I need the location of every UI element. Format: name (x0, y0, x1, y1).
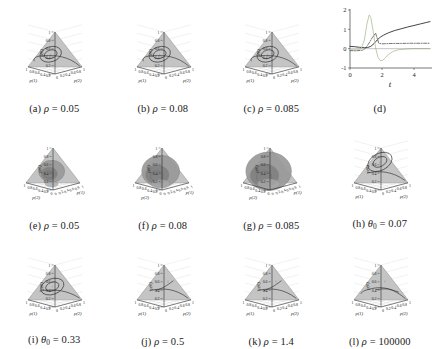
panel-l-eq: = (370, 336, 376, 347)
svg-text:0.8: 0.8 (246, 70, 251, 74)
svg-text:p(0): p(0) (39, 49, 44, 58)
svg-text:0.6: 0.6 (143, 71, 148, 75)
svg-text:0.4: 0.4 (40, 73, 45, 77)
panel-i-param: θ0 (41, 334, 50, 345)
svg-text:0.8: 0.8 (46, 271, 51, 275)
svg-text:+: + (166, 279, 168, 283)
figure-panel-grid: +10.80.60.40.20p(0)0.20.40.60.81p(1)00.2… (0, 0, 434, 349)
panel-c-param: ρ (258, 103, 263, 114)
svg-text:0.2: 0.2 (46, 64, 51, 68)
panel-i-value: 0.33 (62, 334, 81, 345)
svg-text:p(2): p(2) (290, 78, 299, 83)
panel-c-plot: +10.80.60.40.20p(0)0.20.40.60.81p(1)00.2… (217, 2, 326, 94)
panel-c: +10.80.60.40.20p(0)0.20.40.60.81p(1)00.2… (217, 0, 326, 116)
svg-text:0.8: 0.8 (355, 186, 360, 190)
svg-text:p(1): p(1) (245, 78, 254, 83)
svg-text:0.2: 0.2 (154, 307, 159, 311)
panel-c-svg: +10.80.60.40.20p(0)0.20.40.60.81p(1)00.2… (217, 2, 326, 94)
panel-g-plot: 10.80.60.40.20p(0)10.80.60.40.20p(2)00.2… (217, 118, 326, 210)
svg-text:p(0): p(0) (364, 281, 369, 290)
svg-text:1: 1 (243, 301, 245, 305)
panel-f-value: 0.08 (168, 220, 187, 231)
svg-text:0.4: 0.4 (174, 73, 179, 77)
svg-text:-1: -1 (341, 64, 346, 71)
panel-b-caption: (b) ρ = 0.08 (109, 103, 218, 114)
panel-g-eq: = (266, 220, 272, 231)
panel-f-letter: (f) (138, 220, 149, 231)
panel-h-value: 0.07 (388, 218, 407, 229)
svg-text:p(1): p(1) (28, 311, 37, 316)
svg-text:0.6: 0.6 (44, 164, 49, 168)
panel-l-svg: +10.80.60.40.20p(0)0.20.40.60.81p(1)00.2… (326, 235, 434, 327)
panel-f-caption: (f) ρ = 0.08 (109, 220, 218, 231)
svg-text:0.2: 0.2 (385, 307, 390, 311)
panel-d-plot: 210-1024t (326, 2, 434, 94)
svg-text:0.4: 0.4 (371, 288, 376, 292)
panel-h-svg: +10.80.60.40.20p(0)0.20.40.60.81p(1)00.2… (326, 118, 434, 210)
panel-c-eq: = (266, 103, 272, 114)
svg-text:0.2: 0.2 (371, 180, 376, 184)
svg-text:0.4: 0.4 (46, 288, 51, 292)
panel-j-caption: (j) ρ = 0.5 (109, 336, 218, 347)
svg-text:0.6: 0.6 (263, 280, 268, 284)
svg-text:0.8: 0.8 (293, 302, 298, 306)
panel-h-eq: = (380, 218, 386, 229)
svg-text:0.2: 0.2 (152, 180, 157, 184)
svg-text:0.2: 0.2 (44, 190, 49, 194)
panel-g-caption: (g) ρ = 0.085 (217, 220, 326, 231)
svg-text:0: 0 (343, 45, 346, 52)
svg-text:0.4: 0.4 (65, 305, 70, 309)
panel-e-param: ρ (44, 220, 49, 231)
svg-text:0.2: 0.2 (371, 307, 376, 311)
svg-text:0.2: 0.2 (60, 74, 65, 78)
svg-text:0: 0 (382, 308, 384, 312)
panel-a-caption: (a) ρ = 0.05 (0, 103, 109, 114)
panel-j-param: ρ (154, 336, 159, 347)
svg-text:0.8: 0.8 (355, 302, 360, 306)
svg-text:1: 1 (83, 68, 85, 72)
svg-text:0.4: 0.4 (152, 172, 157, 176)
svg-text:0.4: 0.4 (257, 305, 262, 309)
svg-text:0: 0 (165, 76, 167, 80)
svg-text:0.2: 0.2 (46, 74, 51, 78)
svg-text:1: 1 (374, 263, 376, 267)
svg-text:p(2): p(2) (290, 311, 299, 316)
svg-text:0.2: 0.2 (261, 190, 266, 194)
svg-text:0.4: 0.4 (255, 189, 260, 193)
svg-text:p(1): p(1) (28, 78, 37, 83)
svg-text:p(0): p(0) (256, 281, 261, 290)
svg-text:p(2): p(2) (398, 194, 407, 199)
panel-b: +10.80.60.40.20p(0)0.20.40.60.81p(1)00.2… (109, 0, 218, 116)
svg-text:p(0): p(0) (39, 281, 44, 290)
svg-text:0.6: 0.6 (371, 280, 376, 284)
panel-f: 10.80.60.40.20p(0)10.80.60.40.20p(2)00.2… (109, 116, 218, 232)
svg-text:1: 1 (192, 301, 194, 305)
svg-text:0.4: 0.4 (282, 73, 287, 77)
panel-i-svg: +10.80.60.40.20p(0)0.20.40.60.81p(1)00.2… (0, 235, 109, 327)
svg-text:0.8: 0.8 (263, 39, 268, 43)
svg-text:0.6: 0.6 (33, 188, 38, 192)
svg-text:0.4: 0.4 (261, 172, 266, 176)
svg-text:0.2: 0.2 (46, 297, 51, 301)
panel-l-letter: (l) (349, 336, 359, 347)
panel-h-caption: (h) θ0 = 0.07 (326, 218, 434, 231)
panel-e-letter: (e) (29, 220, 41, 231)
svg-text:0.4: 0.4 (366, 189, 371, 193)
panel-i-plot: +10.80.60.40.20p(0)0.20.40.60.81p(1)00.2… (0, 235, 109, 327)
panel-d-svg: 210-1024t (326, 2, 434, 94)
svg-text:0.2: 0.2 (263, 64, 268, 68)
svg-text:0.6: 0.6 (143, 304, 148, 308)
panel-j: +10.80.60.40.20p(0)0.20.40.60.81p(1)00.2… (109, 233, 218, 349)
svg-text:+: + (378, 161, 380, 165)
svg-text:1: 1 (343, 26, 346, 33)
svg-text:p(1): p(1) (354, 194, 363, 199)
panel-b-svg: +10.80.60.40.20p(0)0.20.40.60.81p(1)00.2… (109, 2, 218, 94)
svg-text:0.2: 0.2 (154, 64, 159, 68)
svg-text:0.2: 0.2 (154, 74, 159, 78)
svg-text:0.2: 0.2 (371, 190, 376, 194)
svg-text:0.2: 0.2 (277, 307, 282, 311)
panel-c-letter: (c) (244, 103, 256, 114)
panel-g-value: 0.085 (275, 220, 299, 231)
svg-text:0.6: 0.6 (152, 164, 157, 168)
svg-text:p(2): p(2) (31, 195, 40, 200)
